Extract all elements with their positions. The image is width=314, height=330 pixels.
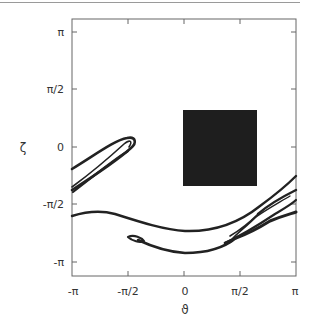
x-tick-label: -π xyxy=(68,285,79,298)
y-tick-label: -π/2 xyxy=(43,198,64,211)
y-axis-label: ζ xyxy=(20,141,27,155)
y-tick-label: 0 xyxy=(57,141,64,154)
y-tick-label: -π xyxy=(53,256,64,269)
x-tick-label: π xyxy=(292,285,299,298)
phase-portrait-chart: π π/2 0 -π/2 -π -π -π/2 0 π/2 π ϑ ζ xyxy=(0,0,314,330)
x-tick-label: π/2 xyxy=(231,285,248,298)
x-tick-label: 0 xyxy=(182,285,189,298)
x-axis-label: ϑ xyxy=(181,303,188,317)
filled-square-region xyxy=(183,110,257,186)
y-tick-label: π xyxy=(57,26,64,39)
y-tick-label: π/2 xyxy=(47,83,64,96)
x-tick-label: -π/2 xyxy=(117,285,138,298)
